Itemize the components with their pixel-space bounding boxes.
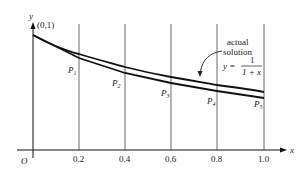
annotation-line1: actual	[227, 37, 249, 47]
point-label-p5: P5	[253, 99, 263, 110]
x-tick-1.0: 1.0	[258, 154, 270, 164]
x-axis-label: x	[289, 145, 294, 155]
annotation-eq-lhs: y =	[222, 61, 235, 71]
origin-label: O	[21, 156, 28, 166]
point-label-p4: P4	[206, 96, 216, 107]
y-axis-label: y	[28, 11, 33, 21]
euler-method-figure: y (0,1) O x 0.2 0.4 0.6 0.8 1.0 P1 P2 P3…	[0, 0, 299, 178]
start-point-label: (0,1)	[37, 20, 54, 30]
point-label-p1: P1	[67, 65, 77, 76]
x-tick-0.2: 0.2	[73, 154, 84, 164]
x-axis-arrow-icon	[280, 148, 287, 153]
point-label-p3: P3	[160, 88, 170, 99]
annotation-arrow	[200, 51, 222, 73]
x-tick-0.8: 0.8	[211, 154, 223, 164]
annotation-line2: solution	[223, 47, 253, 57]
y-axis-arrow-icon	[31, 22, 36, 29]
annotation-eq-num: 1	[250, 55, 255, 65]
point-label-p2: P2	[111, 78, 121, 89]
x-tick-0.4: 0.4	[119, 154, 131, 164]
x-tick-0.6: 0.6	[165, 154, 177, 164]
annotation-eq-den: 1 + x	[242, 67, 261, 77]
annotation-arrowhead-icon	[198, 71, 203, 77]
